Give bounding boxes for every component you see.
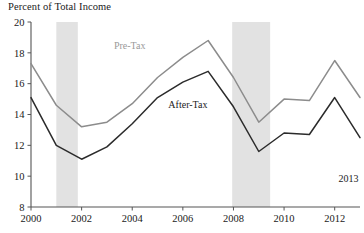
series-line-after-tax [31,71,360,159]
x-tick-label: 2004 [122,213,144,224]
y-tick-label: 8 [19,202,24,213]
y-axis-ticks: 8101214161820 [14,17,31,213]
pre-tax-label: Pre-Tax [114,40,146,51]
y-tick-label: 10 [14,171,25,182]
chart-plot-area: 8101214161820 20002002200420062008201020… [0,0,364,233]
y-tick-label: 20 [14,17,25,28]
x-axis-ticks: 2000200220042006200820102012 [21,207,346,224]
chart-container: Percent of Total Income 8101214161820 20… [0,0,364,233]
after-tax-label: After-Tax [168,99,207,110]
y-tick-label: 16 [14,78,25,89]
x-tick-label: 2002 [71,213,92,224]
series-line-pre-tax [31,41,360,127]
x-tick-label: 2000 [21,213,42,224]
x-tick-label: 2008 [223,213,244,224]
y-tick-label: 12 [14,140,25,151]
x-tick-label: 2010 [274,213,295,224]
y-tick-label: 14 [14,109,25,120]
y-tick-label: 18 [14,48,25,59]
end-year-label: 2013 [339,173,359,184]
x-tick-label: 2012 [324,213,345,224]
x-tick-label: 2006 [172,213,193,224]
